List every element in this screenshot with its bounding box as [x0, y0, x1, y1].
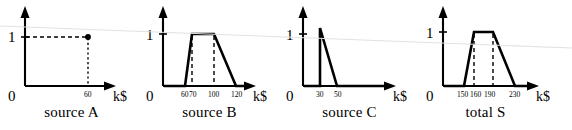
caption-total-s: total S [414, 104, 557, 121]
data-point-a [85, 34, 91, 40]
x-tick-label-b-100: 100 [208, 90, 220, 99]
y-axis-arrowhead-c [299, 6, 308, 18]
caption-source-c: source C [278, 104, 421, 121]
x-tick-label-b-70: 70 [189, 90, 197, 99]
origin-label-a: 0 [8, 88, 16, 104]
panel-source-b: 1 0 60 70 100 120 k$ source B [140, 0, 283, 130]
origin-label-s: 0 [426, 88, 434, 104]
x-tick-label-s-190: 190 [484, 90, 496, 99]
x-axis-unit-label-b: k$ [253, 89, 267, 104]
chart-total-s: 1 0 150 160 190 230 k$ [420, 0, 572, 104]
x-tick-label-s-160: 160 [470, 90, 482, 99]
panel-total-s: 1 0 150 160 190 230 k$ total S [420, 0, 563, 130]
chart-source-b: 1 0 60 70 100 120 k$ [140, 0, 283, 104]
y-tick-label-c: 1 [286, 27, 294, 43]
x-axis-unit-label-c: k$ [393, 89, 407, 104]
x-tick-label-c-30: 30 [316, 90, 324, 99]
y-axis-arrowhead-a [21, 6, 30, 18]
origin-label-b: 0 [146, 88, 154, 104]
y-tick-label-s: 1 [426, 25, 434, 41]
chart-source-c: 1 0 30 50 k$ [280, 0, 423, 104]
x-tick-label-b-60: 60 [181, 90, 189, 99]
x-tick-label-a-60: 60 [84, 90, 92, 99]
panel-source-a: 1 0 60 k$ source A [0, 0, 143, 130]
y-axis-arrowhead-b [159, 6, 168, 18]
x-axis-unit-label-a: k$ [113, 89, 127, 104]
curve-source-c [304, 28, 388, 86]
x-tick-label-s-230: 230 [509, 90, 521, 99]
x-tick-label-b-120: 120 [231, 90, 243, 99]
origin-label-c: 0 [286, 88, 294, 104]
caption-source-b: source B [138, 104, 281, 121]
y-tick-label-a: 1 [8, 29, 16, 45]
panel-source-c: 1 0 30 50 k$ source C [280, 0, 423, 130]
curve-total-s [444, 32, 530, 86]
y-axis-arrowhead-s [439, 6, 448, 18]
caption-source-a: source A [0, 104, 143, 121]
x-axis-unit-label-s: k$ [536, 89, 550, 104]
x-tick-label-c-50: 50 [334, 90, 342, 99]
x-tick-label-s-150: 150 [457, 90, 469, 99]
chart-source-a: 1 0 60 k$ [0, 0, 143, 104]
curve-source-b [164, 34, 248, 86]
fuzzy-sum-figure: 1 0 60 k$ source A 1 0 60 70 100 120 k$ [0, 0, 572, 130]
y-tick-label-b: 1 [146, 27, 154, 43]
